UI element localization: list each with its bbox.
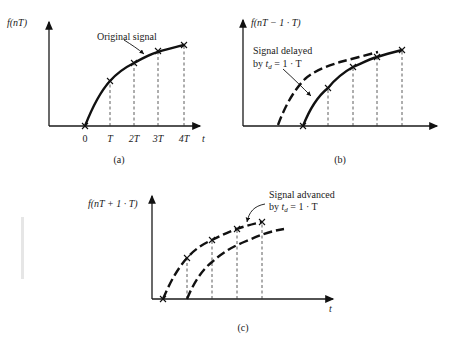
- original-signal-curve: [85, 45, 184, 126]
- caption-c: (c): [237, 322, 248, 334]
- caption-a: (a): [113, 154, 124, 166]
- sample-markers-a: [82, 42, 187, 129]
- tick-labels-a: 0 T 2T 3T 4T t: [83, 133, 206, 144]
- panel-a: Original signal f(nT) 0 T 2T 3T 4T t (a): [7, 17, 205, 166]
- tick-3T: 3T: [152, 133, 165, 144]
- tick-2T: 2T: [129, 133, 141, 144]
- annotation-delayed-line1: Signal delayed: [253, 45, 312, 56]
- annotation-advanced-line2: by td = 1 · T: [269, 201, 318, 214]
- annotation-original-signal: Original signal: [97, 31, 157, 42]
- annotation-pointer-a: [124, 40, 144, 54]
- annotation-pointer-c: [247, 204, 265, 222]
- annotation-delayed-line2: by td = 1 · T: [253, 58, 302, 71]
- panel-b: Signal delayed by td = 1 · T f(nT − 1 · …: [243, 17, 437, 166]
- y-axis-label-c: f(nT + 1 · T): [88, 198, 138, 210]
- annotation-pointer-b: [283, 69, 311, 96]
- panel-c: Signal advanced by td = 1 · T f(nT + 1 ·…: [88, 189, 335, 334]
- caption-b: (b): [334, 154, 346, 166]
- delayed-signal-curve: [303, 50, 402, 126]
- x-axis-label-c: t: [329, 303, 332, 314]
- scan-artifact: [21, 217, 24, 279]
- annotation-advanced-line1: Signal advanced: [269, 189, 335, 200]
- diagram-canvas: Original signal f(nT) 0 T 2T 3T 4T t (a): [0, 0, 451, 352]
- original-signal-dashed-c: [187, 229, 284, 299]
- tick-0: 0: [83, 133, 88, 144]
- tick-4T: 4T: [179, 133, 191, 144]
- x-axis-label-a: t: [202, 133, 205, 144]
- y-axis-label-a: f(nT): [7, 17, 28, 29]
- y-axis-label-b: f(nT − 1 · T): [251, 17, 301, 29]
- tick-T: T: [107, 133, 114, 144]
